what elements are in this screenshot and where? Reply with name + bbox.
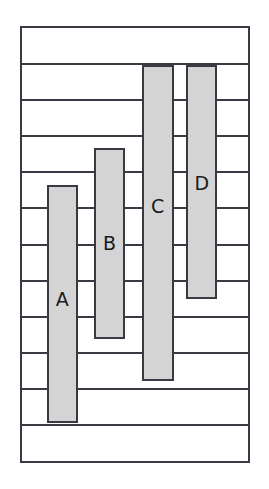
gridline-horizontal <box>22 424 248 426</box>
plot-area: ABCD <box>22 28 248 461</box>
bar-d[interactable] <box>186 65 217 300</box>
bar-c[interactable] <box>142 65 174 381</box>
bar-a[interactable] <box>47 185 78 424</box>
figure-canvas: ABCD <box>0 0 269 489</box>
bar-b[interactable] <box>94 148 125 339</box>
plot-frame: ABCD <box>20 26 250 463</box>
